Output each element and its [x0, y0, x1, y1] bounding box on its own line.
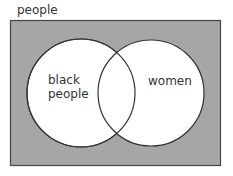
venn-diagram — [0, 0, 233, 176]
set-label-line: people — [48, 87, 89, 101]
set-label-line: black — [48, 73, 89, 87]
set-circle-women — [98, 40, 204, 146]
set-label-women: women — [148, 74, 192, 88]
set-label-black-people: black people — [48, 73, 89, 101]
